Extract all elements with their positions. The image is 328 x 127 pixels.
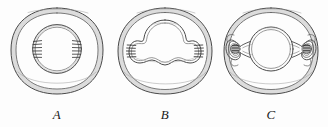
neck-left-inner-c <box>243 45 251 55</box>
panel-label-b: B <box>110 108 220 121</box>
panel-label-c: C <box>216 108 326 121</box>
panel-c-illustration <box>216 2 326 102</box>
inner-mass-outer-line-b <box>129 20 201 65</box>
hatch-marks-right-b <box>194 45 204 57</box>
outer-wall-band-a <box>11 8 103 94</box>
outer-wall-band-c <box>224 8 318 94</box>
panel-a-illustration <box>2 2 112 102</box>
inner-mass-inner-line-b <box>131 23 198 62</box>
figure-panel-a: A <box>2 0 112 127</box>
hatch-marks-right-c <box>303 46 310 52</box>
figure-panel-c: C <box>216 0 326 127</box>
inner-body-inner-line-a <box>35 27 79 71</box>
central-body-outer-line-c <box>249 27 293 71</box>
central-body-inner-line-c <box>252 30 291 69</box>
inner-body-outer-line-a <box>33 25 82 74</box>
hatch-marks-left-b <box>126 45 135 57</box>
outer-wall-inner-line-c <box>229 13 313 90</box>
figure-root: A <box>0 0 328 127</box>
inner-mass-shading-b <box>134 23 196 63</box>
figure-panel-b: B <box>110 0 220 127</box>
panel-b-illustration <box>110 2 220 102</box>
neck-right-inner-c <box>291 45 299 55</box>
hatch-marks-left-c <box>232 46 239 52</box>
panel-label-a: A <box>2 108 112 121</box>
